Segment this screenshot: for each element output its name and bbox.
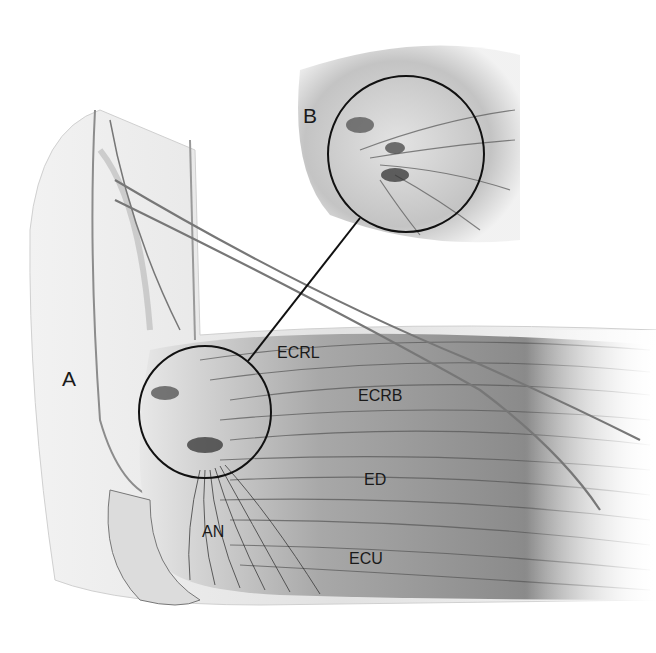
label-an: AN — [202, 524, 224, 540]
label-ed: ED — [364, 472, 386, 488]
label-ecrb: ECRB — [358, 388, 402, 404]
label-ecu: ECU — [349, 551, 383, 567]
inset-b-region — [298, 45, 520, 242]
label-b: B — [303, 105, 317, 126]
label-ecrl: ECRL — [277, 345, 320, 361]
label-a: A — [62, 368, 76, 389]
extensor-muscles — [0, 330, 656, 610]
elbow-anatomy-figure — [0, 0, 656, 653]
